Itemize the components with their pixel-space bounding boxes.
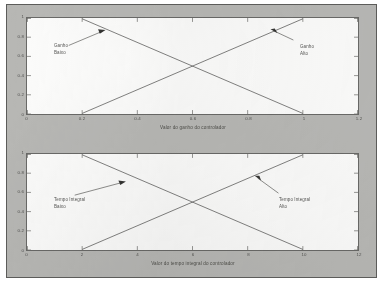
x-tick-label: 2 xyxy=(81,253,84,257)
y-tick-label: 0.4 xyxy=(13,210,24,214)
chart-panel-gain: 0 0.2 0.4 0.6 0.8 1 xyxy=(7,7,378,143)
annotation-line-2: Baixo xyxy=(54,204,85,211)
annotation-leader-ganho-alto xyxy=(271,28,294,40)
annotation-tempo-integral-baixo: Tempo Integral Baixo xyxy=(54,197,85,210)
x-axis-title-gain: Valor do ganho do controlador xyxy=(160,125,226,130)
annotation-tempo-integral-alto: Tempo Integral Alto xyxy=(279,197,310,210)
y-tick-label: 1 xyxy=(13,151,24,155)
annotation-line-1: Ganho xyxy=(300,44,314,51)
x-tick-label: 1.2 xyxy=(356,117,362,121)
y-tick-label: 0.4 xyxy=(13,74,24,78)
y-tick-label: 1 xyxy=(13,15,24,19)
annotation-line-1: Tempo Integral xyxy=(54,197,85,204)
y-tick-label: 0 xyxy=(13,249,24,253)
annotation-line-2: Baixo xyxy=(54,50,68,57)
chart-panel-integral-time: 0 0.2 0.4 0.6 0.8 1 xyxy=(7,143,378,277)
x-tick-label: 0 xyxy=(25,253,28,257)
x-tick-label: 12 xyxy=(356,253,361,257)
x-axis-title-integral-time: Valor do tempo integral do controlador xyxy=(151,261,235,266)
annotation-leader-tempo-integral-alto xyxy=(255,176,279,193)
x-tick-label: 0 xyxy=(25,117,28,121)
annotation-leader-tempo-integral-baixo xyxy=(75,180,126,195)
plot-lines-gain xyxy=(27,18,358,114)
figure-frame: 0 0.2 0.4 0.6 0.8 1 xyxy=(6,4,377,278)
x-tick-label: 6 xyxy=(192,253,195,257)
x-tick-label: 0.4 xyxy=(134,117,140,121)
annotation-leader-ganho-baixo xyxy=(69,29,106,45)
x-tick-label: 1 xyxy=(303,117,306,121)
x-tick-label: 0.6 xyxy=(190,117,196,121)
x-tick-label: 0.2 xyxy=(79,117,85,121)
y-tick-label: 0.8 xyxy=(13,170,24,174)
x-tick-label: 10 xyxy=(301,253,306,257)
y-tick-label: 0.2 xyxy=(13,93,24,97)
x-tick-label: 0.8 xyxy=(245,117,251,121)
x-tick-label: 8 xyxy=(247,253,250,257)
x-tick-label: 4 xyxy=(136,253,139,257)
annotation-line-1: Ganho xyxy=(54,43,68,50)
y-tick-label: 0.2 xyxy=(13,229,24,233)
y-tick-label: 0.6 xyxy=(13,190,24,194)
annotation-line-2: Alto xyxy=(279,204,310,211)
y-tick-label: 0.6 xyxy=(13,54,24,58)
annotation-ganho-alto: Ganho Alto xyxy=(300,44,314,57)
plot-area-gain xyxy=(26,17,359,115)
annotation-line-1: Tempo Integral xyxy=(279,197,310,204)
annotation-ganho-baixo: Ganho Baixo xyxy=(54,43,68,56)
y-tick-label: 0 xyxy=(13,113,24,117)
y-tick-label: 0.8 xyxy=(13,34,24,38)
annotation-line-2: Alto xyxy=(300,51,314,58)
